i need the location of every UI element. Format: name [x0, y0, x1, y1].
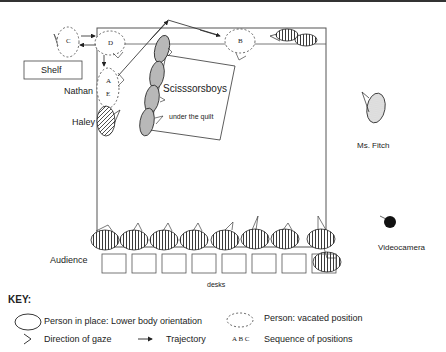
classroom-diagram: [0, 0, 446, 352]
haley-label: Haley: [72, 117, 95, 127]
key-sequence-letters: A B C: [232, 335, 250, 343]
position-d: D: [108, 39, 113, 47]
ms-fitch-label: Ms. Fitch: [357, 141, 389, 150]
key-gaze: Direction of gaze: [44, 334, 112, 344]
key-person-in-place: Person in place: Lower body orientation: [44, 316, 202, 326]
shelf-label: Shelf: [41, 65, 62, 75]
audience-label: Audience: [50, 255, 88, 265]
position-a: A: [106, 77, 111, 85]
position-b: B: [238, 37, 243, 45]
videocamera-label: Videocamera: [378, 243, 425, 252]
key-heading: KEY:: [8, 294, 31, 305]
key-sequence: Sequence of positions: [264, 334, 353, 344]
key-trajectory: Trajectory: [166, 334, 206, 344]
position-e: E: [106, 90, 110, 98]
desks-label: desks: [207, 281, 225, 288]
scissorsboys-label: Scisssorsboys: [163, 83, 227, 94]
nathan-label: Nathan: [64, 86, 93, 96]
position-c: C: [66, 37, 71, 45]
quilt-label: under the quilt: [169, 113, 213, 120]
desk-row: [102, 254, 336, 273]
key-vacated: Person: vacated position: [264, 313, 363, 323]
